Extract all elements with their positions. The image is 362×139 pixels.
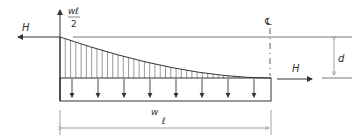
- load-arrows: [72, 79, 254, 97]
- sag-label: d: [338, 53, 345, 64]
- h-right-label: H: [292, 63, 300, 74]
- reaction-denominator: 2: [71, 19, 77, 29]
- cable-diagram: H H wℓ 2 ℄ d w ℓ: [0, 0, 362, 139]
- load-block: [60, 78, 271, 101]
- h-left-label: H: [22, 22, 30, 33]
- load-label: w: [151, 107, 159, 117]
- span-label: ℓ: [161, 116, 166, 126]
- centerline-symbol: ℄: [264, 16, 272, 27]
- reaction-numerator: wℓ: [68, 6, 79, 16]
- tension-hatching: [65, 39, 265, 78]
